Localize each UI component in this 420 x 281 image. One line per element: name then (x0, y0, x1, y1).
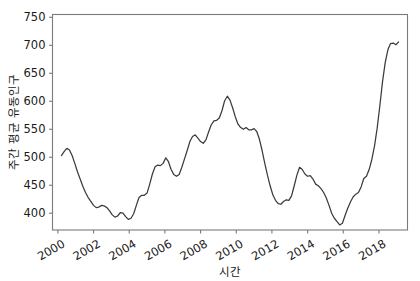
y-tick-label: 600 (24, 94, 46, 108)
x-axis-title: 시간 (219, 265, 241, 279)
y-tick-label: 400 (24, 206, 46, 220)
y-axis-title: 주간 평균 유동인구 (7, 74, 21, 169)
y-tick-label: 500 (24, 150, 46, 164)
y-tick-label: 450 (24, 178, 46, 192)
line-chart-canvas: 400450500550600650700750 200020022004200… (0, 0, 420, 281)
figure-background (0, 0, 420, 281)
chart-figure: 400450500550600650700750 200020022004200… (0, 0, 420, 281)
y-tick-label: 550 (24, 122, 46, 136)
y-tick-label: 750 (24, 10, 46, 24)
y-tick-label: 650 (24, 66, 46, 80)
y-tick-label: 700 (24, 38, 46, 52)
